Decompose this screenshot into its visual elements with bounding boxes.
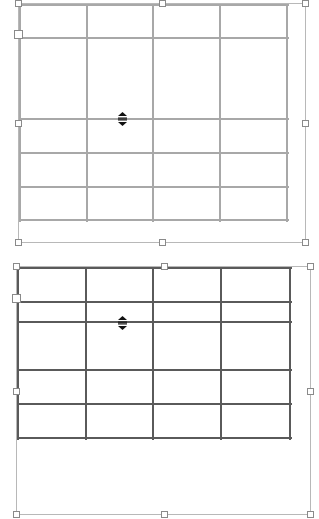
top-table-selection-frame bbox=[18, 3, 306, 243]
bottom-table-row-border[interactable] bbox=[18, 369, 292, 371]
top-table-resize-handle[interactable] bbox=[302, 120, 309, 127]
top-table-row-border[interactable] bbox=[20, 37, 289, 39]
top-table-row-border[interactable] bbox=[20, 152, 289, 154]
bottom-table-column-border[interactable] bbox=[289, 268, 291, 440]
top-table-row-border[interactable] bbox=[20, 4, 289, 6]
bottom-table-row-border[interactable] bbox=[18, 301, 292, 303]
top-table-row-border[interactable] bbox=[20, 186, 289, 188]
bottom-table-resize-handle[interactable] bbox=[161, 263, 168, 270]
top-table-row-border[interactable] bbox=[20, 118, 289, 120]
bottom-table-resize-handle[interactable] bbox=[307, 263, 314, 270]
top-table-resize-handle[interactable] bbox=[302, 0, 309, 7]
bottom-table-resize-handle[interactable] bbox=[13, 388, 20, 395]
bottom-table-column-border[interactable] bbox=[85, 268, 87, 440]
row-resize-icon bbox=[118, 316, 127, 330]
top-table-column-border[interactable] bbox=[86, 5, 88, 222]
bottom-table-resize-handle[interactable] bbox=[307, 511, 314, 518]
bottom-table-row-border[interactable] bbox=[18, 267, 292, 269]
top-table-resize-handle[interactable] bbox=[15, 239, 22, 246]
top-table-row-border[interactable] bbox=[20, 219, 289, 221]
bottom-table-resize-handle[interactable] bbox=[307, 388, 314, 395]
bottom-table-selection-frame bbox=[16, 266, 311, 515]
top-table-resize-handle[interactable] bbox=[302, 239, 309, 246]
bottom-table-row-border[interactable] bbox=[18, 403, 292, 405]
bottom-table-row-border[interactable] bbox=[18, 321, 292, 323]
top-table-row-handle[interactable] bbox=[14, 30, 23, 39]
top-table-resize-handle[interactable] bbox=[159, 239, 166, 246]
top-table-column-border[interactable] bbox=[219, 5, 221, 222]
bottom-table-resize-handle[interactable] bbox=[161, 511, 168, 518]
bottom-table-row-border[interactable] bbox=[18, 437, 292, 439]
top-table-resize-handle[interactable] bbox=[15, 120, 22, 127]
top-table-resize-handle[interactable] bbox=[159, 0, 166, 7]
top-table-column-border[interactable] bbox=[152, 5, 154, 222]
top-table-resize-handle[interactable] bbox=[15, 0, 22, 7]
bottom-table-column-border[interactable] bbox=[152, 268, 154, 440]
row-resize-icon bbox=[118, 112, 127, 126]
bottom-table-resize-handle[interactable] bbox=[13, 263, 20, 270]
top-table-column-border[interactable] bbox=[286, 5, 288, 222]
bottom-table-column-border[interactable] bbox=[220, 268, 222, 440]
bottom-table-row-handle[interactable] bbox=[12, 294, 21, 303]
bottom-table-resize-handle[interactable] bbox=[13, 511, 20, 518]
